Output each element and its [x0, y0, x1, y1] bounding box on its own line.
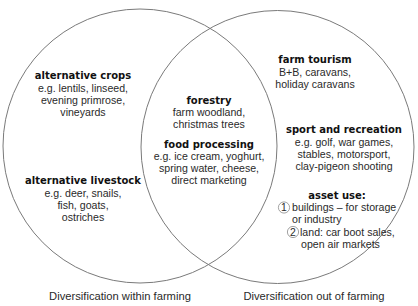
text-line: B+B, caravans, — [279, 66, 351, 78]
text-line: farm woodland, — [173, 106, 245, 118]
text-line: e.g. golf, war games, — [295, 136, 393, 148]
text-line: direct marketing — [171, 174, 246, 186]
group-food-processing: food processing e.g. ice cream, yoghurt,… — [154, 139, 265, 186]
heading-asset-use: asset use: — [308, 190, 366, 201]
venn-canvas: alternative crops e.g. lentils, linseed,… — [0, 0, 418, 306]
label-out-of-farming: Diversification out of farming — [243, 290, 384, 302]
text-line: spring water, cheese, — [159, 162, 259, 174]
group-asset-use: asset use: 1 buildings – for storage or … — [278, 190, 396, 250]
heading-alternative-livestock: alternative livestock — [25, 175, 141, 186]
text-line: clay-pigeon shooting — [295, 160, 392, 172]
heading-sport-and-recreation: sport and recreation — [286, 124, 402, 135]
text-line: christmas trees — [173, 118, 245, 130]
number-2: 2 — [290, 227, 296, 238]
group-sport-and-recreation: sport and recreation e.g. golf, war game… — [286, 124, 402, 172]
group-farm-tourism: farm tourism B+B, caravans, holiday cara… — [275, 54, 355, 90]
text-line: stables, motorsport, — [297, 148, 390, 160]
venn-diagram: alternative crops e.g. lentils, linseed,… — [0, 0, 418, 306]
text-line: buildings – for storage — [292, 201, 396, 213]
text-line: e.g. lentils, linseed, — [38, 82, 128, 94]
heading-forestry: forestry — [186, 95, 232, 106]
text-line: land: car boot sales, — [300, 226, 395, 238]
text-line: e.g. ice cream, yoghurt, — [154, 150, 265, 162]
group-alternative-crops: alternative crops e.g. lentils, linseed,… — [35, 70, 131, 118]
heading-farm-tourism: farm tourism — [278, 54, 351, 65]
text-line: vineyards — [60, 106, 105, 118]
text-line: evening primrose, — [41, 94, 125, 106]
text-line: open air markets — [301, 238, 380, 250]
heading-alternative-crops: alternative crops — [35, 70, 131, 81]
text-line: e.g. deer, snails, — [44, 187, 121, 199]
text-line: holiday caravans — [275, 78, 355, 90]
group-alternative-livestock: alternative livestock e.g. deer, snails,… — [25, 175, 141, 223]
group-forestry: forestry farm woodland, christmas trees — [173, 95, 245, 130]
number-1: 1 — [281, 202, 287, 213]
text-line: ostriches — [62, 211, 104, 223]
text-line: or industry — [292, 213, 342, 225]
heading-food-processing: food processing — [164, 139, 254, 150]
text-line: fish, goats, — [57, 199, 108, 211]
label-within-farming: Diversification within farming — [49, 290, 191, 302]
